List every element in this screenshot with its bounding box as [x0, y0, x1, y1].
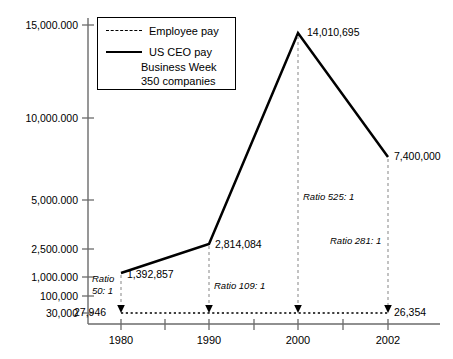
- ratio-annotation-1990: Ratio 109: 1: [214, 281, 265, 292]
- legend-entry-employee-pay: Employee pay: [106, 25, 219, 37]
- data-label-employee-2002: 26,354: [394, 306, 426, 318]
- y-tick-label-30000: 30,000: [0, 307, 78, 319]
- data-label-employee-1980: 27,946: [74, 306, 106, 318]
- x-tick-label-2000: 2000: [268, 334, 328, 347]
- legend: Employee pay US CEO pay Business Week 35…: [97, 17, 236, 90]
- dashed-line-swatch-icon: [106, 26, 142, 36]
- legend-label-us-ceo-pay: US CEO pay: [149, 46, 212, 58]
- y-tick-label-100000: 100,000: [0, 290, 78, 302]
- data-label-ceo-2002: 7,400,000: [394, 150, 441, 162]
- x-tick-label-2002: 2002: [358, 334, 418, 347]
- legend-label-employee-pay: Employee pay: [149, 25, 219, 37]
- ratio-annotation-2000: Ratio 525: 1: [303, 192, 354, 203]
- y-tick-label-1000000: 1,000.000: [0, 271, 78, 283]
- legend-entry-us-ceo-pay: US CEO pay: [106, 46, 212, 58]
- legend-subline-350-companies: 350 companies: [141, 75, 216, 87]
- legend-subline-business-week: Business Week: [141, 61, 217, 73]
- ratio-annotation-1980-line1: Ratio: [92, 274, 114, 285]
- solid-line-swatch-icon: [106, 47, 142, 57]
- data-label-ceo-1990: 2,814,084: [215, 238, 262, 250]
- ratio-connector-arrowheads: [117, 305, 392, 313]
- y-tick-label-15000000: 15,000.000: [0, 19, 78, 31]
- x-tick-label-1980: 1980: [91, 334, 151, 347]
- ratio-annotation-1980-line2: 50: 1: [92, 286, 113, 297]
- ceo-pay-chart: 15,000.000 10,000.000 5,000.000 2,500.00…: [0, 0, 453, 359]
- data-label-ceo-1980: 1,392,857: [127, 268, 174, 280]
- x-tick-label-1990: 1990: [179, 334, 239, 347]
- y-tick-label-2500000: 2,500.000: [0, 243, 78, 255]
- ratio-annotation-2002: Ratio 281: 1: [330, 236, 381, 247]
- y-tick-label-10000000: 10,000.000: [0, 112, 78, 124]
- data-label-ceo-2000: 14,010,695: [307, 26, 360, 38]
- y-tick-label-5000000: 5,000.000: [0, 194, 78, 206]
